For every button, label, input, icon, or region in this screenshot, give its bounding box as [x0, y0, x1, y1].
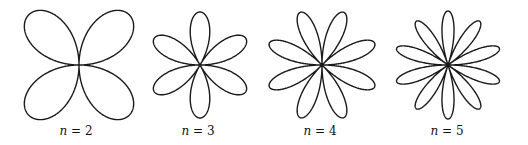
label-n2: n = 2 [59, 124, 92, 138]
rose-curve-n2 [24, 10, 133, 119]
label-n3: n = 3 [181, 124, 214, 138]
label-n5: n = 5 [430, 124, 463, 138]
rose-curve-n5 [397, 11, 500, 119]
label-n4: n = 4 [303, 124, 336, 138]
rose-curve-n4 [269, 12, 375, 118]
rose-curve-n3 [153, 12, 246, 118]
